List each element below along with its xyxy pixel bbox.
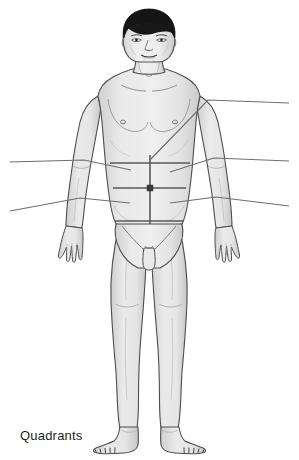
- anatomy-illustration: [0, 0, 299, 460]
- head-group: [122, 9, 176, 62]
- umbilicus-marker: [147, 185, 153, 191]
- figure-caption: Quadrants: [20, 428, 83, 443]
- right-eye: [132, 39, 142, 42]
- torso: [98, 66, 200, 227]
- penis: [143, 248, 155, 270]
- anatomical-figure-diagram: Quadrants: [0, 0, 299, 460]
- left-eye: [157, 39, 167, 42]
- torso-group: [98, 66, 200, 227]
